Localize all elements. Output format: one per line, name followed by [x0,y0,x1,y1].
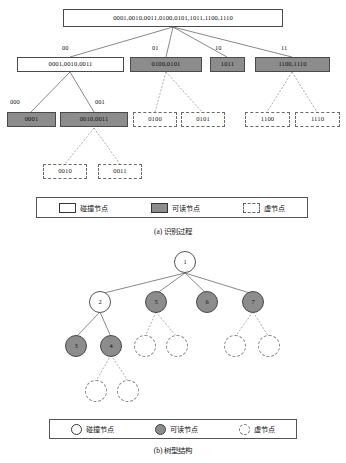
node-level2-11[interactable]: 1100,1110 [255,57,330,72]
legend-label-readable-b: 可读节点 [170,424,198,434]
edge-label-10: 10 [215,45,221,51]
tree-node-virtual-2[interactable] [166,335,188,357]
node-root-box[interactable]: 0001,0010,0011,0100,0101,1011,1100,1110 [63,9,283,27]
tree-node-6[interactable]: 6 [196,291,218,313]
edge-root-11 [173,27,292,57]
edge-01-0100 [155,72,166,112]
tree-node-virtual-5[interactable] [85,380,107,402]
legend-label-virtual: 虚节点 [264,203,285,213]
legend-panel-b: 碰撞节点 可读节点 虚节点 [49,419,297,439]
tree-node-virtual-4[interactable] [258,335,280,357]
edge-11-1110 [292,72,317,112]
edge-001-0010 [65,128,94,164]
edge-n1-n7 [185,273,253,294]
legend-item-readable-circle: 可读节点 [155,424,198,435]
node-level3-1110[interactable]: 1110 [295,112,340,127]
edge-root-00 [70,27,173,57]
node-level3-0001[interactable]: 0001 [7,112,56,127]
edge-00-000 [31,72,70,112]
edge-n1-n5 [156,273,185,294]
caption-panel-a: (a) 识别过程 [0,225,346,236]
figure-root: 0001,0010,0011,0100,0101,1011,1100,1110 … [0,0,346,463]
tree-node-4[interactable]: 4 [100,335,122,357]
edge-root-10 [173,27,227,57]
node-level2-00[interactable]: 0001,0010,0011 [17,57,124,72]
edge-label-00: 00 [62,45,68,51]
node-level3-0100[interactable]: 0100 [133,112,177,127]
readable-circle-icon [155,424,166,435]
legend-item-virtual-circle: 虚节点 [239,424,275,435]
tree-node-5[interactable]: 5 [145,291,167,313]
edge-11-1100 [267,72,292,112]
edge-n5-v1 [145,312,156,337]
edge-n4-v6 [111,355,128,381]
edge-n7-v3 [235,312,253,337]
node-level3-1100[interactable]: 1100 [245,112,290,127]
edge-n2-n4 [100,312,111,337]
tree-node-virtual-6[interactable] [117,380,139,402]
node-level3-0101[interactable]: 0101 [181,112,225,127]
edge-00-001 [70,72,94,112]
edge-n4-v5 [96,355,111,381]
tree-node-virtual-1[interactable] [134,335,156,357]
edge-01-0101 [166,72,202,112]
node-level4-0010[interactable]: 0010 [43,164,87,179]
caption-panel-b: (b) 树型结构 [0,444,346,455]
readable-swatch-icon [151,203,168,213]
legend-label-virtual-b: 虚节点 [254,424,275,434]
collision-circle-icon [71,424,82,435]
virtual-swatch-icon [243,203,260,213]
node-level4-0011[interactable]: 0011 [98,164,142,179]
tree-node-1[interactable]: 1 [174,251,196,273]
edge-root-01 [166,27,173,57]
legend-label-collision-b: 碰撞节点 [86,424,114,434]
legend-item-collision-circle: 碰撞节点 [71,424,114,435]
edge-label-000: 000 [10,99,20,105]
node-level3-0010-0011[interactable]: 0010,0011 [60,112,128,127]
edge-n7-v4 [253,312,269,337]
edge-label-01: 01 [152,45,158,51]
tree-node-3[interactable]: 3 [65,335,87,357]
tree-node-2[interactable]: 2 [89,291,111,313]
legend-item-virtual: 虚节点 [243,203,285,213]
legend-label-readable: 可读节点 [172,203,200,213]
legend-item-collision: 碰撞节点 [59,203,108,213]
legend-item-readable: 可读节点 [151,203,200,213]
virtual-circle-icon [239,424,250,435]
edge-n1-n2 [100,273,185,294]
legend-panel-a: 碰撞节点 可读节点 虚节点 [36,197,308,218]
edge-n2-n3 [76,312,100,337]
node-level2-01[interactable]: 0100,0101 [130,57,202,72]
collision-swatch-icon [59,203,76,213]
tree-node-virtual-3[interactable] [224,335,246,357]
edge-n5-v2 [156,312,177,337]
edge-label-11: 11 [281,45,287,51]
tree-node-7[interactable]: 7 [242,291,264,313]
edge-001-0011 [94,128,120,164]
legend-label-collision: 碰撞节点 [80,203,108,213]
edge-label-001: 001 [95,99,105,105]
node-level2-10[interactable]: 1011 [210,57,245,72]
